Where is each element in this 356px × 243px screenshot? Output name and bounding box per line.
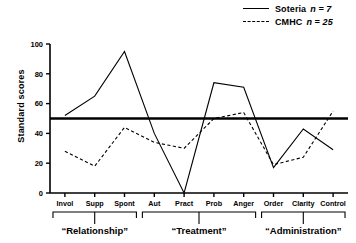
group-brackets (53, 212, 345, 224)
chart-legend: Soteria n = 7 CMHC n = 25 (243, 2, 356, 28)
legend-key-cmhc-icon (243, 17, 269, 26)
x-category-label: Pract (175, 199, 194, 208)
x-category-label: Prob (206, 199, 223, 208)
group-label: “Relationship” (61, 225, 128, 236)
group-label: “Treatment” (172, 225, 227, 236)
y-tick-label: 0 (39, 189, 43, 198)
x-category-label: Aut (148, 199, 161, 208)
y-tick-label: 40 (35, 129, 43, 138)
series-line-soteria (65, 51, 333, 193)
figure-root: Soteria n = 7 CMHC n = 25 Standard score… (0, 0, 356, 243)
group-label: “Administration” (265, 225, 342, 236)
x-category-label: Order (264, 199, 284, 208)
y-tick-label: 80 (35, 70, 43, 79)
legend-item-cmhc: CMHC n = 25 (243, 15, 356, 28)
x-category-label: Control (320, 199, 346, 208)
x-category-label: Supp (86, 199, 105, 208)
legend-item-soteria: Soteria n = 7 (243, 2, 356, 15)
y-axis-ticks: 020406080100 (30, 40, 50, 198)
x-category-label: Clarity (292, 199, 314, 208)
legend-label-soteria: Soteria (275, 4, 306, 14)
x-category-label: Invol (57, 199, 74, 208)
legend-n-soteria: n = 7 (310, 4, 331, 14)
chart-plot-area: 020406080100 InvolSuppSpontAutPractProbA… (0, 0, 356, 243)
group-labels: “Relationship”“Treatment”“Administration… (61, 225, 341, 236)
y-tick-label: 20 (35, 159, 43, 168)
legend-n-cmhc-value: n = 25 (306, 17, 332, 27)
y-tick-label: 100 (30, 40, 43, 49)
x-category-label: Spont (114, 199, 135, 208)
legend-key-soteria-icon (243, 4, 269, 13)
legend-n-soteria-value: n = 7 (310, 4, 331, 14)
x-category-label: Anger (233, 199, 254, 208)
x-axis-category-labels: InvolSuppSpontAutPractProbAngerOrderClar… (57, 199, 346, 208)
legend-label-cmhc: CMHC (275, 17, 302, 27)
y-tick-label: 60 (35, 99, 43, 108)
y-axis-title: Standard scores (16, 46, 26, 166)
legend-n-cmhc: n = 25 (306, 17, 332, 27)
